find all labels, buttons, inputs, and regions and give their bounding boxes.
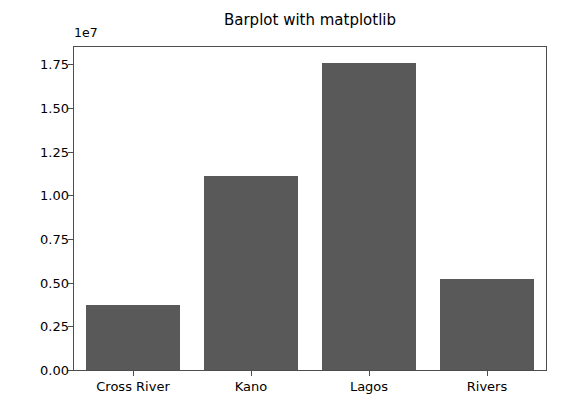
x-tick-label: Kano bbox=[235, 379, 267, 394]
y-tick-label: 1.25 bbox=[40, 145, 69, 158]
y-tick-label: 1.75 bbox=[40, 58, 69, 71]
y-tick-label: 0.00 bbox=[40, 364, 69, 377]
x-tick-mark bbox=[369, 370, 370, 376]
bar bbox=[440, 279, 534, 370]
x-tick-mark bbox=[133, 370, 134, 376]
y-axis-offset-label: 1e7 bbox=[74, 26, 98, 40]
matplotlib-figure: Barplot with matplotlib 1e7 0.000.250.50… bbox=[0, 0, 570, 416]
y-tick-label: 0.25 bbox=[40, 320, 69, 333]
plot-area bbox=[74, 47, 546, 370]
bar bbox=[322, 63, 416, 370]
x-tick-label: Cross River bbox=[96, 379, 169, 394]
y-tick-label: 0.50 bbox=[40, 276, 69, 289]
x-tick-label: Rivers bbox=[467, 379, 507, 394]
x-tick-label: Lagos bbox=[350, 379, 388, 394]
y-tick-label: 1.50 bbox=[40, 102, 69, 115]
bar bbox=[86, 305, 180, 370]
x-tick-mark bbox=[251, 370, 252, 376]
bar bbox=[204, 176, 298, 370]
x-tick-mark bbox=[487, 370, 488, 376]
plot-axes: 0.000.250.500.751.001.251.501.75Cross Ri… bbox=[73, 46, 547, 371]
y-tick-label: 0.75 bbox=[40, 233, 69, 246]
y-tick-label: 1.00 bbox=[40, 189, 69, 202]
chart-title: Barplot with matplotlib bbox=[73, 10, 547, 30]
